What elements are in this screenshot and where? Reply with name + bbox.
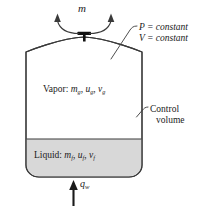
pressure-constant-label: P = constant [139, 22, 188, 33]
outflow-path-right [90, 21, 112, 34]
liquid-properties-label: Liquid: mf, uf, vf [34, 150, 95, 161]
heat-flux-label: qw [80, 178, 89, 189]
volume-constant-label: V = constant [139, 33, 188, 44]
volume-constant-text: V = constant [139, 33, 188, 43]
outflow-arrowhead-left [54, 14, 61, 23]
control-volume-label-line2: volume [156, 115, 185, 126]
liquid-volume-subscript: f [93, 154, 95, 161]
thermodynamics-control-volume-figure: m P = constant V = constant Vapor: mg, u… [0, 0, 199, 209]
valve-stem [83, 35, 86, 42]
vapor-mass-subscript: g [78, 88, 81, 95]
vapor-energy-subscript: g [90, 88, 93, 95]
heat-flux-arrowhead [69, 180, 78, 190]
liquid-prefix: Liquid: [34, 150, 62, 160]
mdot-symbol: m [78, 2, 86, 14]
mass-flow-rate-label: m [78, 2, 86, 14]
vapor-properties-label: Vapor: mg, ug, vg [43, 84, 105, 95]
liquid-energy-subscript: f [82, 154, 84, 161]
outflow-arrowhead-right [108, 14, 115, 23]
vapor-mass-symbol: m [71, 84, 78, 94]
liquid-mass-subscript: f [71, 154, 73, 161]
outflow-path-left [58, 21, 80, 34]
control-volume-label-line1: Control [150, 104, 179, 115]
pressure-constant-text: P = constant [139, 22, 188, 32]
vapor-volume-subscript: g [102, 88, 105, 95]
vapor-prefix: Vapor: [43, 84, 68, 94]
heat-flux-subscript: w [85, 183, 89, 190]
